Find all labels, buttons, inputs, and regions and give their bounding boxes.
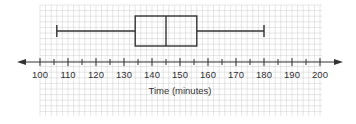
box-and-whisker [57, 16, 264, 46]
tick-label: 120 [88, 69, 104, 80]
x-axis: 100110120130140150160170180190200 [17, 58, 343, 80]
x-axis-title: Time (minutes) [149, 85, 212, 96]
left-arrow-icon [17, 59, 26, 65]
tick-label: 160 [200, 69, 216, 80]
tick-label: 200 [312, 69, 328, 80]
box-plot-chart: 100110120130140150160170180190200 Time (… [0, 0, 356, 124]
tick-label: 140 [144, 69, 160, 80]
tick-label: 130 [116, 69, 132, 80]
tick-label: 190 [284, 69, 300, 80]
tick-label: 170 [228, 69, 244, 80]
tick-label: 180 [256, 69, 272, 80]
right-arrow-icon [334, 59, 343, 65]
tick-label: 110 [60, 69, 75, 80]
tick-label: 100 [32, 69, 48, 80]
tick-label: 150 [172, 69, 188, 80]
